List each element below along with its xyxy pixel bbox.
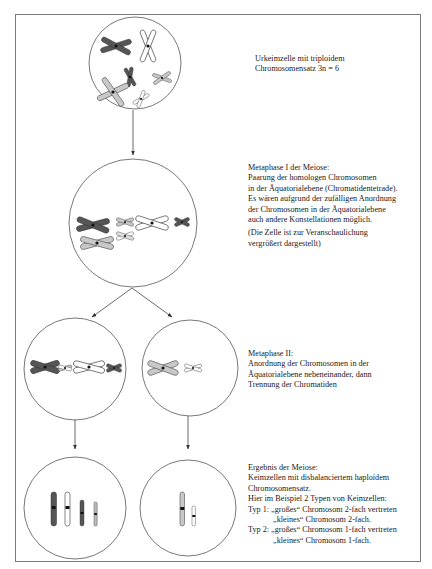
- caption-line: Äquatorialebene nebeneinander, dann: [248, 370, 372, 380]
- caption-line: auch andere Konstellationen möglich.: [248, 215, 398, 225]
- cell-gamete-type-1: [24, 457, 126, 559]
- type-desc-cont: „kleines“ Chromosom 1-fach.: [248, 536, 397, 546]
- caption-line: Chromosomensatz.: [248, 484, 397, 494]
- type-desc-cont: „kleines“ Chromosom 2-fach.: [248, 515, 397, 525]
- caption-line: Keimzellen mit disbalanciertem haploidem: [248, 473, 397, 483]
- type-desc: „großes“ Chromosom 1-fach vertreten: [271, 525, 397, 534]
- caption-line: Hier im Beispiel 2 Typen von Keimzellen:: [248, 494, 397, 504]
- cell-metaphase-1: [69, 159, 197, 287]
- caption-urkeimzelle: Urkeimzelle mit triploidem Chromosomensa…: [255, 54, 345, 75]
- caption-metaphase-2: Metaphase II: Anordnung der Chromosomen …: [248, 349, 372, 391]
- cell-gamete-type-2: [140, 460, 236, 556]
- arrow-to-metaphase-2-left: [92, 288, 132, 317]
- caption-line: Anordnung der Chromosomen in der: [248, 359, 372, 369]
- caption-metaphase-1: Metaphase I der Meiose: Paarung der homo…: [248, 163, 398, 249]
- arrow-to-metaphase-2-right: [132, 288, 172, 317]
- cell-urkeimzelle: [89, 17, 181, 109]
- caption-heading: Ergebnis der Meiose:: [248, 463, 397, 473]
- type-desc: „großes“ Chromosom 2-fach vertreten: [271, 505, 397, 514]
- cell-metaphase-2-left: [24, 318, 126, 420]
- gamete-type-2: Typ 2: „großes“ Chromosom 1-fach vertret…: [248, 525, 397, 535]
- caption-line: in der Äquatorialebene (Chromatidentetra…: [248, 184, 398, 194]
- caption-line: Es wären aufgrund der zufälligen Anordnu…: [248, 194, 398, 204]
- type-label: Typ 1:: [248, 505, 269, 514]
- gamete-type-1: Typ 1: „großes“ Chromosom 2-fach vertret…: [248, 505, 397, 515]
- caption-heading: Metaphase I der Meiose:: [248, 163, 398, 173]
- caption-line: Urkeimzelle mit triploidem: [255, 54, 345, 64]
- caption-heading: Metaphase II:: [248, 349, 372, 359]
- caption-note: vergrößert dargestellt): [248, 239, 398, 249]
- chromosome-large-gray: [96, 77, 129, 108]
- caption-line: Trennung der Chromatiden: [248, 380, 372, 390]
- type-label: Typ 2:: [248, 525, 269, 534]
- caption-line: Paarung der homologen Chromosomen: [248, 173, 398, 183]
- chromosome-small-white: [132, 90, 149, 108]
- caption-line: Chromosomensatz 3n = 6: [255, 64, 345, 74]
- caption-note: (Die Zelle ist zur Veranschaulichung: [248, 228, 398, 238]
- chromosome-large-white: [139, 29, 156, 62]
- caption-ergebnis: Ergebnis der Meiose: Keimzellen mit disb…: [248, 463, 397, 546]
- cell-metaphase-2-right: [142, 320, 238, 416]
- chromosome-small-gray: [152, 71, 172, 85]
- caption-line: der Chromosomen in der Äquatorialebene: [248, 205, 398, 215]
- chromosome-large-dark: [100, 36, 132, 56]
